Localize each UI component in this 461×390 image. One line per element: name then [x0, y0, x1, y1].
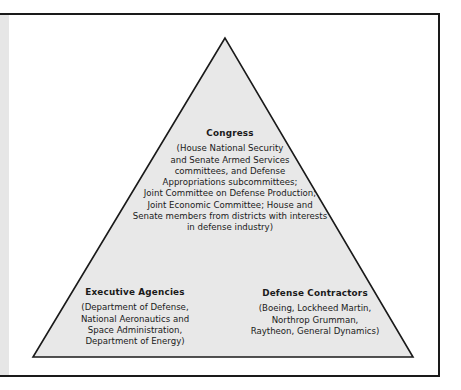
node-congress: Congress (House National Security and Se… — [120, 128, 340, 234]
node-executive-agencies-description: (Department of Defense, National Aeronau… — [65, 302, 205, 347]
node-defense-contractors: Defense Contractors (Boeing, Lockheed Ma… — [240, 288, 390, 337]
node-congress-description: (House National Security and Senate Arme… — [120, 143, 340, 233]
node-defense-contractors-title: Defense Contractors — [240, 288, 390, 299]
node-defense-contractors-description: (Boeing, Lockheed Martin, Northrop Grumm… — [240, 303, 390, 337]
node-executive-agencies: Executive Agencies (Department of Defens… — [65, 287, 205, 347]
node-congress-title: Congress — [120, 128, 340, 139]
node-executive-agencies-title: Executive Agencies — [65, 287, 205, 298]
